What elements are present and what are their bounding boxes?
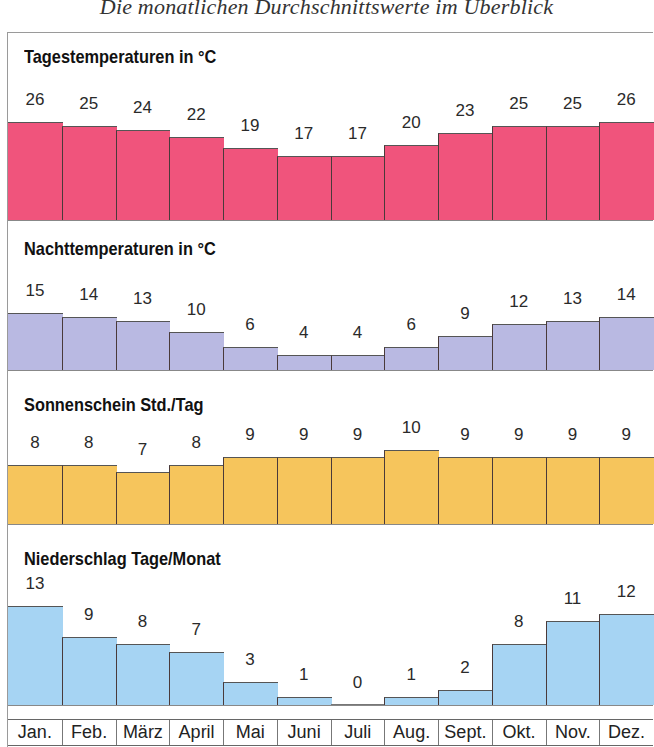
section-title: Nachttemperaturen in °C bbox=[24, 238, 216, 260]
section-precipitation: Niederschlag Tage/Monat 139873101281112 bbox=[8, 548, 653, 707]
bar-aug bbox=[384, 145, 439, 220]
value-label: 25 bbox=[546, 94, 600, 114]
value-label: 22 bbox=[169, 105, 223, 125]
section-title: Sonnenschein Std./Tag bbox=[24, 394, 203, 416]
bar-juni bbox=[277, 697, 332, 705]
baseline bbox=[8, 524, 653, 525]
bar-aug bbox=[384, 450, 439, 524]
value-label: 19 bbox=[223, 116, 277, 136]
bar-mrz bbox=[116, 472, 171, 524]
value-label: 2 bbox=[438, 658, 492, 678]
bar-juni bbox=[277, 457, 332, 524]
month-label: April bbox=[169, 720, 223, 745]
value-label: 25 bbox=[62, 94, 116, 114]
bar-juni bbox=[277, 355, 332, 370]
value-label: 7 bbox=[116, 440, 170, 460]
value-label: 4 bbox=[331, 323, 385, 343]
bar-juli bbox=[331, 156, 386, 220]
bar-jan bbox=[8, 465, 63, 524]
value-label: 17 bbox=[331, 124, 385, 144]
chart-title: Die monatlichen Durchschnittswerte im Üb… bbox=[0, 0, 653, 20]
bar-feb bbox=[62, 126, 117, 220]
value-label: 12 bbox=[599, 582, 653, 602]
month-label: Okt. bbox=[492, 720, 546, 745]
month-label: März bbox=[116, 720, 170, 745]
value-label: 20 bbox=[384, 113, 438, 133]
value-label: 14 bbox=[62, 285, 116, 305]
bar-mrz bbox=[116, 644, 171, 705]
bar-plot: 139873101281112 bbox=[8, 570, 653, 705]
month-axis: Jan.Feb.MärzAprilMaiJuniJuliAug.Sept.Okt… bbox=[8, 719, 653, 746]
value-label: 17 bbox=[277, 124, 331, 144]
month-label: Jan. bbox=[8, 720, 62, 745]
value-label: 9 bbox=[62, 605, 116, 625]
bar-jan bbox=[8, 313, 63, 370]
bar-nov bbox=[546, 126, 601, 220]
value-label: 9 bbox=[438, 304, 492, 324]
section-sunshine: Sonnenschein Std./Tag 8878999109999 bbox=[8, 394, 653, 526]
baseline bbox=[8, 705, 653, 706]
month-label: Mai bbox=[223, 720, 277, 745]
value-label: 8 bbox=[492, 612, 546, 632]
value-label: 8 bbox=[8, 433, 62, 453]
value-label: 3 bbox=[223, 650, 277, 670]
bar-mrz bbox=[116, 130, 171, 220]
section-night-temperature: Nachttemperaturen in °C 1514131064469121… bbox=[8, 238, 653, 372]
bar-dez bbox=[599, 317, 654, 370]
bar-okt bbox=[492, 644, 547, 705]
value-label: 15 bbox=[8, 281, 62, 301]
month-label: Aug. bbox=[384, 720, 438, 745]
section-day-temperature: Tagestemperaturen in °C 2625242219171720… bbox=[8, 46, 653, 222]
value-label: 12 bbox=[492, 292, 546, 312]
bar-juni bbox=[277, 156, 332, 220]
bar-feb bbox=[62, 465, 117, 524]
value-label: 13 bbox=[546, 289, 600, 309]
month-label: Juli bbox=[331, 720, 385, 745]
value-label: 23 bbox=[438, 101, 492, 121]
bar-aug bbox=[384, 347, 439, 370]
bar-nov bbox=[546, 621, 601, 705]
bar-sept bbox=[438, 133, 493, 220]
bar-aug bbox=[384, 697, 439, 705]
value-label: 13 bbox=[8, 574, 62, 594]
value-label: 10 bbox=[169, 300, 223, 320]
value-label: 9 bbox=[438, 425, 492, 445]
month-label: Dez. bbox=[599, 720, 653, 745]
value-label: 1 bbox=[384, 665, 438, 685]
value-label: 25 bbox=[492, 94, 546, 114]
value-label: 8 bbox=[116, 612, 170, 632]
title-divider bbox=[7, 32, 653, 33]
bar-feb bbox=[62, 317, 117, 370]
value-label: 9 bbox=[599, 425, 653, 445]
value-label: 9 bbox=[277, 425, 331, 445]
baseline bbox=[8, 370, 653, 371]
bar-mrz bbox=[116, 321, 171, 370]
month-label: Juni bbox=[277, 720, 331, 745]
bar-plot: 8878999109999 bbox=[8, 418, 653, 524]
bar-mai bbox=[223, 347, 278, 370]
value-label: 8 bbox=[62, 433, 116, 453]
bar-juli bbox=[331, 355, 386, 370]
bar-feb bbox=[62, 637, 117, 705]
bar-jan bbox=[8, 606, 63, 705]
bar-okt bbox=[492, 126, 547, 220]
bar-nov bbox=[546, 457, 601, 524]
value-label: 4 bbox=[277, 323, 331, 343]
value-label: 26 bbox=[599, 90, 653, 110]
value-label: 11 bbox=[546, 589, 600, 609]
bar-plot: 1514131064469121314 bbox=[8, 262, 653, 370]
value-label: 9 bbox=[546, 425, 600, 445]
value-label: 0 bbox=[331, 673, 385, 693]
bar-okt bbox=[492, 324, 547, 370]
bar-juli bbox=[331, 457, 386, 524]
bar-april bbox=[169, 332, 224, 370]
value-label: 7 bbox=[169, 620, 223, 640]
value-label: 9 bbox=[223, 425, 277, 445]
value-label: 26 bbox=[8, 90, 62, 110]
section-title: Niederschlag Tage/Monat bbox=[24, 548, 221, 570]
bar-sept bbox=[438, 336, 493, 370]
value-label: 24 bbox=[116, 98, 170, 118]
value-label: 10 bbox=[384, 418, 438, 438]
bar-mai bbox=[223, 457, 278, 524]
value-label: 14 bbox=[599, 285, 653, 305]
